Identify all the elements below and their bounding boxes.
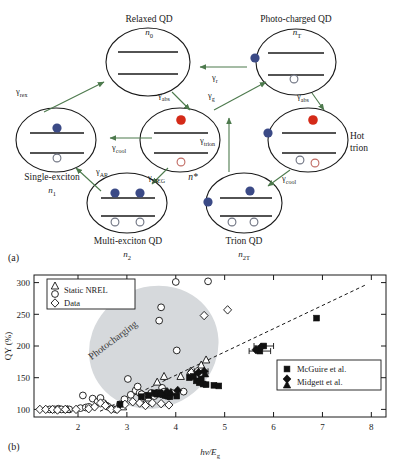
- hole-circle: [136, 218, 144, 226]
- hole-circle: [53, 154, 61, 162]
- label-single-exciton: Single-exciton: [2, 172, 102, 183]
- rate-gamma-r: γr: [212, 72, 218, 84]
- rate-gamma-abs-2: γabs: [297, 91, 309, 103]
- panel-b-tag: (b): [8, 441, 20, 452]
- electron-dot: [135, 188, 144, 197]
- label-relaxed-qd: Relaxed QD: [105, 14, 193, 25]
- arrow-gamma-g: [214, 82, 266, 110]
- hole-circle: [111, 218, 119, 226]
- data-point: [134, 383, 141, 390]
- data-point: [139, 394, 145, 400]
- x-tick-label: 4: [174, 422, 179, 432]
- label-hot-trion-line1: Hot: [350, 131, 390, 142]
- data-point: [172, 279, 179, 286]
- data-point: [173, 347, 180, 354]
- legend-label: Static NREL: [64, 285, 108, 295]
- label-nstar: n*: [182, 172, 204, 183]
- data-point: [146, 393, 152, 399]
- right-legend: McGuire et al.Midgett et al.: [277, 360, 381, 390]
- legend-marker: [52, 291, 59, 298]
- electron-dot: [250, 53, 259, 62]
- label-trion-n: n2T: [230, 249, 258, 261]
- data-point: [158, 304, 165, 311]
- left-legend: Static NRELData: [47, 279, 135, 309]
- data-point: [216, 383, 222, 389]
- rate-gamma-meg: γMEG: [148, 172, 165, 184]
- y-tick-label: 100: [17, 405, 31, 415]
- hole-circle: [296, 156, 304, 164]
- data-point: [156, 317, 163, 324]
- legend-marker: [284, 366, 290, 372]
- panel-a-state-diagram: Relaxed QD n0 Photo-charged QD nT Single…: [0, 0, 395, 268]
- electron-dot: [245, 186, 254, 195]
- x-tick-label: 3: [125, 422, 130, 432]
- hole-circle: [228, 218, 236, 226]
- rate-gamma-rex: γrex: [16, 86, 27, 98]
- arrow-gamma-abs-2: [312, 93, 324, 110]
- data-point: [205, 278, 212, 285]
- label-trion-qd: Trion QD: [206, 236, 282, 247]
- legend-label: Midgett et al.: [297, 377, 343, 387]
- arrow-gamma-rex: [44, 82, 104, 112]
- qd-single-exciton: [16, 108, 96, 172]
- y-tick-label: 250: [17, 310, 31, 320]
- x-tick-label: 5: [222, 422, 227, 432]
- data-point: [314, 315, 320, 321]
- rate-gamma-trion: γtrion: [200, 135, 215, 147]
- y-axis-label: QY (%): [3, 332, 13, 360]
- qy-vs-photon-energy-chart: 2345678100150200250300QY (%)hν/EgPhotoch…: [0, 265, 395, 469]
- label-hot-trion-line2: trion: [350, 143, 390, 154]
- data-point: [79, 392, 86, 399]
- hot-hole-circle: [311, 159, 319, 167]
- qd-hot-trion: [263, 108, 348, 172]
- state-diagram-svg: [0, 0, 395, 268]
- label-multi-exciton-qd: Multi-exciton QD: [73, 236, 183, 247]
- label-multi-n: n2: [113, 249, 141, 261]
- electron-dot: [110, 188, 119, 197]
- electron-dot: [52, 123, 61, 132]
- hole-circle: [290, 75, 298, 83]
- data-point: [117, 401, 123, 407]
- label-photocharged-qd: Photo-charged QD: [239, 14, 353, 25]
- arrow-gamma-abs-1: [172, 92, 190, 110]
- legend-label: Data: [64, 298, 80, 308]
- data-point: [203, 382, 209, 388]
- y-tick-label: 200: [17, 341, 31, 351]
- hot-electron-dot: [176, 115, 186, 125]
- x-tick-label: 7: [320, 422, 325, 432]
- rate-gamma-cool-2: γcool: [282, 173, 296, 185]
- rate-gamma-cool-1: γcool: [112, 142, 126, 154]
- data-point: [180, 388, 187, 395]
- x-tick-label: 2: [76, 422, 81, 432]
- data-point: [224, 306, 232, 314]
- figure-container: Relaxed QD n0 Photo-charged QD nT Single…: [0, 0, 395, 469]
- x-tick-label: 6: [271, 422, 276, 432]
- label-photocharged-n: nT: [283, 27, 311, 39]
- y-tick-label: 300: [17, 278, 31, 288]
- hole-circle: [250, 218, 258, 226]
- rate-gamma-g: γg: [208, 90, 215, 102]
- electron-dot: [203, 197, 212, 206]
- rate-gamma-ar: γAR: [96, 166, 108, 178]
- data-point: [124, 376, 131, 383]
- rate-gamma-abs-1: γabs: [158, 90, 170, 102]
- y-tick-label: 150: [17, 373, 31, 383]
- electron-dot: [263, 128, 272, 137]
- legend-label: McGuire et al.: [297, 364, 346, 374]
- x-axis-label: hν/Eg: [200, 447, 221, 459]
- qd-trion: [203, 173, 282, 233]
- label-single-n: n1: [38, 185, 66, 197]
- hot-hole-circle: [177, 158, 185, 166]
- hot-electron-dot: [308, 115, 318, 125]
- panel-a-tag: (a): [8, 252, 19, 263]
- x-tick-label: 8: [369, 422, 374, 432]
- label-relaxed-n: n0: [135, 27, 163, 39]
- data-point: [174, 393, 180, 399]
- panel-b-scatter-chart: 2345678100150200250300QY (%)hν/EgPhotoch…: [0, 265, 395, 469]
